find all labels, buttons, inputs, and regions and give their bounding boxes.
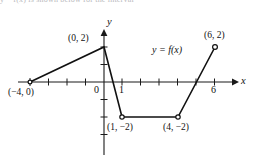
- point-label-4-neg2: (4, −2): [163, 122, 189, 132]
- function-label: y = f(x): [152, 45, 182, 55]
- point-label-neg4-0: (−4, 0): [8, 87, 34, 97]
- graph-svg: [0, 0, 255, 160]
- point-marker-neg4-0: [28, 80, 32, 84]
- x-tick-label-1: 1: [119, 85, 124, 95]
- point-label-0-2: (0, 2): [68, 33, 89, 43]
- y-axis-label: y: [107, 17, 112, 27]
- point-label-6-2: (6, 2): [204, 30, 225, 40]
- x-axis-arrowhead: [232, 79, 239, 86]
- x-tick-label-6: 6: [211, 85, 216, 95]
- figure-canvas: y = f(x) is shown below for the interval: [0, 0, 255, 160]
- origin-label: 0: [94, 85, 99, 95]
- point-marker-4-neg2: [176, 115, 180, 119]
- y-axis-arrowhead: [101, 29, 108, 36]
- point-marker-1-neg2: [120, 115, 124, 119]
- point-marker-6-2: [213, 45, 218, 50]
- x-axis-label: x: [241, 76, 246, 86]
- point-label-1-neg2: (1, −2): [107, 122, 133, 132]
